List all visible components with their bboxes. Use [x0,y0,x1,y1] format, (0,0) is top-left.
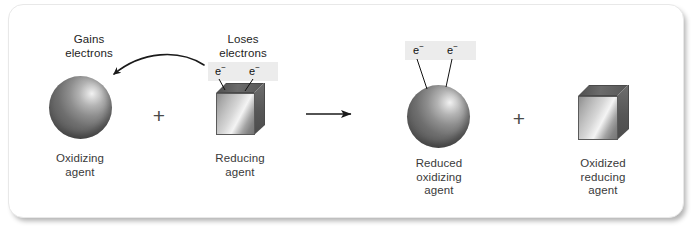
plus-sign-left: + [149,105,169,126]
reducing-agent-label: Reducing agent [190,152,290,179]
oxidized-reducing-agent-label: Oxidized reducing agent [553,157,653,198]
product-electron-label-2: e− [447,45,458,56]
electron-label-1: e− [215,66,226,77]
product-electron-label-1: e− [413,45,424,56]
oxidizing-agent-label: Oxidizing agent [30,152,130,179]
oxidizing-agent-sphere [49,76,112,139]
loses-electrons-label: Loses electrons [193,33,293,60]
reduced-oxidizing-agent-label: Reduced oxidizing agent [389,157,489,198]
plus-sign-right: + [509,108,529,129]
electron-charge-2: − [255,63,260,72]
electron-label-2: e− [249,66,260,77]
reducing-agent-cube [207,83,273,143]
electron-charge-1: − [221,63,226,72]
product-electron-charge-2: − [453,42,458,51]
product-electron-leader-line-1 [417,59,427,89]
gains-electrons-label: Gains electrons [39,33,139,60]
diagram-stage: Gains electrons Oxidizing agent + Loses … [9,5,684,218]
product-electron-leader-line-2 [446,59,452,87]
cube-front-face [216,93,255,135]
cube-front-face [578,96,618,140]
reduced-oxidizing-agent-sphere [407,85,470,148]
oxidized-reducing-agent-cube [569,85,637,147]
product-electron-charge-1: − [419,42,424,51]
redox-diagram-card: Gains electrons Oxidizing agent + Loses … [8,4,684,218]
